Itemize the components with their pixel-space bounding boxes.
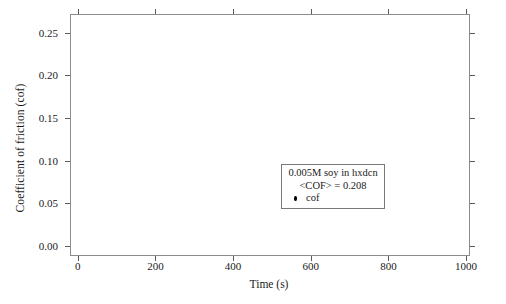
x-tick-label: 400 [203, 260, 263, 272]
scatter-plot-figure: Coefficient of friction (cof) 0.000.050.… [0, 0, 506, 304]
y-axis-tick-labels: 0.000.050.100.150.200.25 [0, 14, 64, 256]
x-axis-label: Time (s) [66, 278, 472, 290]
legend-entry-cof: cof [286, 192, 380, 205]
x-tick-label: 200 [125, 260, 185, 272]
x-tick-label: 1000 [436, 260, 496, 272]
y-axis-tick [470, 75, 475, 76]
legend-series-label: cof [306, 192, 319, 205]
y-tick-label: 0.10 [2, 156, 58, 167]
x-tick-label: 800 [358, 260, 418, 272]
y-axis-tick [470, 203, 475, 204]
plot-frame [70, 14, 470, 256]
legend-box: 0.005M soy in hxdcn <COF> = 0.208 cof [281, 164, 385, 209]
y-axis-tick [470, 161, 475, 162]
y-tick-label: 0.00 [2, 241, 58, 252]
x-tick-label: 600 [281, 260, 341, 272]
y-tick-label: 0.25 [2, 28, 58, 39]
y-tick-label: 0.20 [2, 70, 58, 81]
y-axis-tick [470, 246, 475, 247]
y-axis-tick [470, 118, 475, 119]
y-tick-label: 0.05 [2, 198, 58, 209]
plot-area: 0.005M soy in hxdcn <COF> = 0.208 cof [70, 14, 470, 256]
x-tick-label: 0 [48, 260, 108, 272]
legend-title: 0.005M soy in hxdcn [286, 167, 380, 180]
x-axis-tick-labels: 02004006008001000 [70, 260, 470, 276]
diamond-marker-icon [294, 196, 297, 201]
y-axis-tick [470, 33, 475, 34]
legend-mean-value: <COF> = 0.208 [286, 180, 380, 193]
y-tick-label: 0.15 [2, 113, 58, 124]
